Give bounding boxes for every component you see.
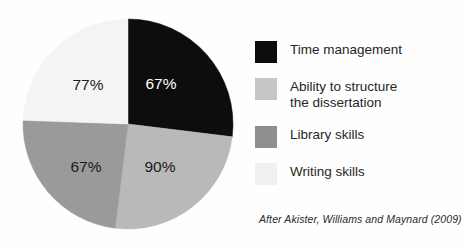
chart-legend: Time management Ability to structure the… [255,40,464,199]
legend-swatch-time-management [255,41,277,63]
pie-slice-group [23,19,233,229]
legend-label-library-skills: Library skills [290,125,364,143]
legend-item-writing-skills[interactable]: Writing skills [255,162,464,185]
pie-chart-svg: 67%90%67%77% [0,0,250,246]
legend-swatch-ability-to-structure [255,78,277,100]
legend-label-writing-skills: Writing skills [290,162,365,180]
pie-slice-ability-to-structure[interactable] [115,124,232,229]
legend-item-library-skills[interactable]: Library skills [255,125,464,148]
pie-chart: 67%90%67%77% [0,0,250,246]
pie-slice-label-library-skills: 67% [70,158,101,175]
legend-item-time-management[interactable]: Time management [255,40,464,63]
legend-swatch-writing-skills [255,163,277,185]
pie-slice-label-writing-skills: 77% [72,76,103,93]
legend-item-ability-to-structure[interactable]: Ability to structure the dissertation [255,77,464,111]
pie-slice-label-time-management: 67% [145,75,176,92]
pie-chart-figure: 67%90%67%77% Time management Ability to … [0,0,464,246]
pie-slice-label-ability-to-structure: 90% [144,158,175,175]
legend-label-ability-to-structure: Ability to structure the dissertation [290,77,397,111]
source-attribution: After Akister, Williams and Maynard (200… [259,213,462,225]
legend-swatch-library-skills [255,126,277,148]
pie-slice-time-management[interactable] [128,19,233,137]
pie-slice-writing-skills[interactable] [23,19,128,124]
legend-label-time-management: Time management [290,40,402,58]
